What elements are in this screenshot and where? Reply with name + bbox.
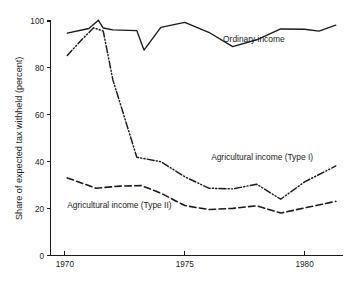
x-axis-ticks: 197019751980	[56, 251, 314, 269]
series-line-ordinary-income	[67, 20, 336, 50]
y-axis-title: Share of expected tax withheld (percent)	[14, 57, 24, 220]
line-chart-plot: 020406080100 197019751980 Share of expec…	[0, 0, 356, 287]
y-axis-title-text: Share of expected tax withheld (percent)	[14, 57, 24, 220]
chart-annotations: Ordinary incomeAgricultural income (Type…	[67, 34, 313, 210]
y-tick-label: 60	[35, 111, 45, 120]
series-line-agricultural-type-1	[67, 28, 336, 199]
type2-label: Agricultural income (Type II)	[67, 200, 171, 210]
y-axis-ticks: 020406080100	[30, 17, 50, 261]
y-tick-label: 80	[35, 64, 45, 73]
x-tick-label: 1980	[296, 260, 315, 269]
chart-series-group	[67, 20, 336, 213]
y-tick-label: 20	[35, 205, 45, 214]
y-tick-label: 100	[30, 17, 44, 26]
x-tick-label: 1970	[56, 260, 75, 269]
ordinary-income-label: Ordinary income	[223, 34, 285, 44]
chart-axes	[51, 21, 344, 256]
axis-spine	[51, 21, 344, 256]
y-tick-label: 0	[39, 252, 44, 261]
x-tick-label: 1975	[176, 260, 195, 269]
y-tick-label: 40	[35, 158, 45, 167]
chart-container: 020406080100 197019751980 Share of expec…	[0, 0, 356, 287]
type1-label: Agricultural income (Type I)	[211, 152, 313, 162]
